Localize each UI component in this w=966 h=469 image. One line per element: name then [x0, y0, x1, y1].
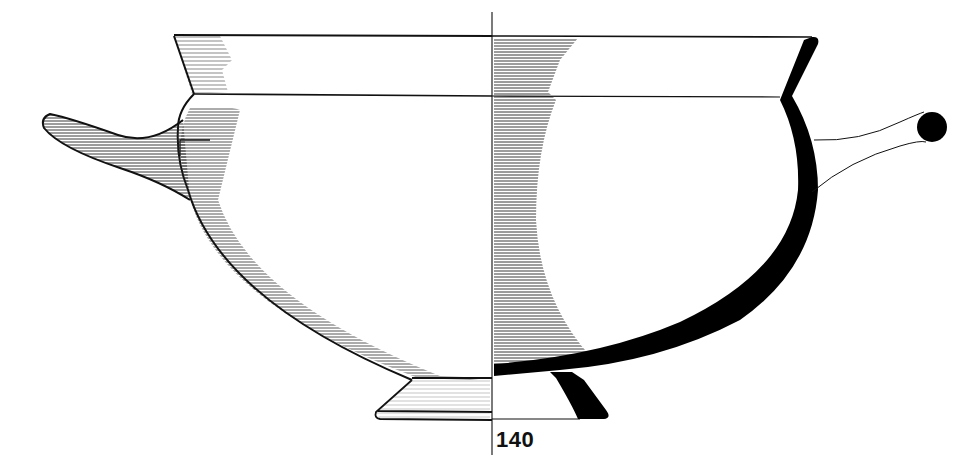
figure-number: 140 — [496, 427, 534, 453]
rim-profile-left — [174, 35, 492, 36]
foot-section — [550, 372, 609, 419]
carination-line-left — [194, 94, 492, 96]
rim-line-right — [492, 36, 812, 37]
handle-section-circle — [917, 112, 947, 142]
handle-left — [43, 114, 190, 200]
section-view — [492, 36, 947, 419]
vessel-drawing — [0, 0, 966, 469]
exterior-view — [43, 35, 492, 420]
handle-right — [812, 112, 926, 192]
